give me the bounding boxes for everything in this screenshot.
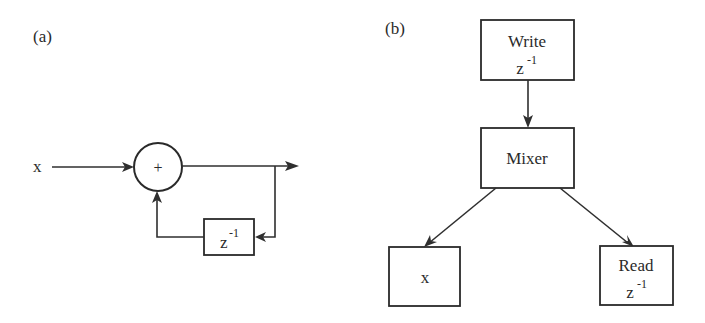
mixer-to-x-arrowhead-icon <box>424 235 437 247</box>
input-x-label: x <box>33 157 42 176</box>
feedback-tap-line <box>261 166 275 237</box>
write-block-exponent: -1 <box>527 53 537 67</box>
write-block-title: Write <box>508 32 546 51</box>
read-block-exponent: -1 <box>637 277 647 291</box>
panel-b: (b) Write z -1 Mixer x Read z -1 <box>385 19 673 306</box>
read-block <box>600 246 673 305</box>
feedback-return-line <box>157 198 204 237</box>
mixer-block-title: Mixer <box>506 149 548 168</box>
adder-plus-symbol: + <box>153 159 162 176</box>
mixer-to-x-line <box>429 188 496 243</box>
x-block-title: x <box>421 268 430 287</box>
delay-block-base: z <box>220 233 228 252</box>
write-block-base: z <box>516 59 524 78</box>
read-block-title: Read <box>619 256 654 275</box>
panel-a: (a) x + z -1 <box>33 27 299 255</box>
panel-a-label: (a) <box>33 27 52 46</box>
panel-b-label: (b) <box>385 19 405 38</box>
figure-canvas: (a) x + z -1 (b) Write z -1 Mi <box>0 0 705 323</box>
mixer-to-read-line <box>560 188 628 243</box>
read-block-base: z <box>626 283 634 302</box>
delay-block-exponent: -1 <box>229 226 239 240</box>
